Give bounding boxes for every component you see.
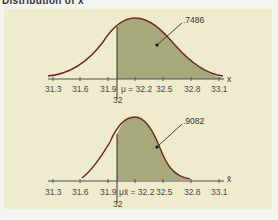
mean-label: μx̄ = 32.2	[119, 187, 155, 197]
area-label: .9082	[183, 116, 205, 126]
tick-label: 32.8	[184, 84, 201, 94]
annotation-pointer	[157, 124, 182, 147]
shaded-area	[117, 18, 223, 79]
tick-label: 32.5	[156, 187, 173, 197]
normal-distribution-charts: x 31.3 31.6 31.9 μ = 32.2 32.5 32.8 33.1…	[0, 0, 278, 220]
tick-label: 33.1	[211, 187, 228, 197]
chart-x-distribution: x 31.3 31.6 31.9 μ = 32.2 32.5 32.8 33.1…	[45, 15, 232, 105]
annotation-dot	[155, 43, 158, 46]
cut-label: 32	[113, 95, 123, 105]
chart-xbar-distribution: x̄ 31.3 31.6 31.9 μx̄ = 32.2 32.5 32.8 3…	[45, 116, 232, 209]
area-label: .7486	[183, 15, 205, 25]
tick-label: 31.6	[72, 187, 89, 197]
tick-label: 32.8	[184, 187, 201, 197]
axis-label-x: x	[227, 74, 232, 84]
cut-label: 32	[113, 199, 123, 209]
tick-label: 31.6	[72, 84, 89, 94]
tick-label: 31.9	[100, 187, 117, 197]
annotation-dot	[155, 145, 158, 148]
tick-label: 31.3	[45, 84, 62, 94]
mean-label: μ = 32.2	[121, 84, 152, 94]
tick-label: 32.5	[156, 84, 173, 94]
tick-label: 33.1	[211, 84, 228, 94]
tick-label: 31.9	[100, 84, 117, 94]
axis-label-xbar: x̄	[227, 174, 232, 184]
tick-label: 31.3	[45, 187, 62, 197]
